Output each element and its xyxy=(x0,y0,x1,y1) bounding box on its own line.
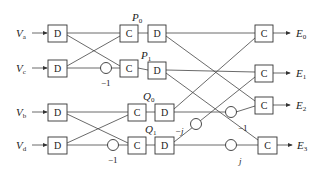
output-label-e1: E1 xyxy=(295,67,307,81)
wire xyxy=(236,106,255,112)
svg-text:C: C xyxy=(126,28,133,39)
delay-block-vb: D xyxy=(48,104,67,121)
output-label-e0: E0 xyxy=(295,27,307,41)
butterfly-diagram: D D D D C C C C D D D xyxy=(0,0,321,172)
delay-block-p0: D xyxy=(148,25,166,42)
delay-block-q1: D xyxy=(155,137,174,154)
multiplier-circle xyxy=(108,140,119,151)
combine-block-q0: C xyxy=(128,104,146,121)
svg-text:D: D xyxy=(54,140,61,151)
input-label-vd: Vd xyxy=(16,139,27,153)
combine-block-p0: C xyxy=(120,25,138,42)
wire xyxy=(166,70,255,72)
delay-block-p1: D xyxy=(148,62,166,79)
combine-block-e1: C xyxy=(255,65,273,82)
delay-block-va: D xyxy=(48,25,67,42)
node-label-q1: Q1 xyxy=(145,123,157,137)
wire xyxy=(166,36,255,101)
coef-label-stage1-bottom: −1 xyxy=(108,155,118,165)
svg-text:D: D xyxy=(161,107,168,118)
svg-text:C: C xyxy=(261,28,268,39)
svg-text:D: D xyxy=(54,107,61,118)
delay-block-q0: D xyxy=(155,104,174,121)
multiplier-circle xyxy=(101,63,112,74)
input-label-vc: Vc xyxy=(16,62,26,76)
coef-label-stage1-top: −1 xyxy=(101,78,111,88)
svg-text:C: C xyxy=(261,100,268,111)
svg-text:D: D xyxy=(153,65,160,76)
multiplier-circle xyxy=(226,107,237,118)
coef-label-neg-j: −j xyxy=(175,126,184,136)
multiplier-circle-neg-j xyxy=(191,119,202,130)
svg-text:C: C xyxy=(134,140,141,151)
output-label-e2: E2 xyxy=(295,99,307,113)
input-label-vb: Vb xyxy=(16,106,27,120)
combine-block-e0: C xyxy=(255,25,273,42)
delay-block-vc: D xyxy=(48,60,67,77)
svg-text:D: D xyxy=(153,28,160,39)
svg-text:C: C xyxy=(264,140,271,151)
coef-label-neg-one: −1 xyxy=(238,123,248,133)
node-label-p1: P1 xyxy=(140,49,152,63)
svg-text:D: D xyxy=(54,28,61,39)
node-label-q0: Q0 xyxy=(143,90,155,104)
multiplier-circle-j xyxy=(226,140,237,151)
svg-text:D: D xyxy=(161,140,168,151)
combine-block-q1: C xyxy=(128,137,146,154)
coef-label-j: j xyxy=(238,156,242,166)
svg-text:D: D xyxy=(54,63,61,74)
wire xyxy=(174,38,255,109)
svg-text:C: C xyxy=(126,63,133,74)
delay-block-vd: D xyxy=(48,137,67,154)
svg-text:C: C xyxy=(261,68,268,79)
combine-block-e2: C xyxy=(255,97,273,114)
wire xyxy=(138,68,148,70)
combine-block-e3: C xyxy=(258,137,277,154)
input-label-va: Va xyxy=(16,27,27,41)
output-label-e3: E3 xyxy=(296,139,308,153)
combine-block-p1: C xyxy=(120,60,138,77)
svg-text:C: C xyxy=(134,107,141,118)
node-label-p0: P0 xyxy=(131,11,143,25)
